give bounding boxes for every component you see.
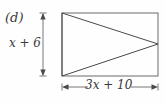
- triangle-shape: [62, 13, 158, 76]
- rectangle-shape: [62, 13, 158, 76]
- width-dimension-label: 3x + 10: [85, 79, 132, 91]
- height-dimension-arrow-top-icon: [40, 13, 45, 20]
- part-label: (d): [5, 11, 23, 24]
- height-dimension-arrow-bottom-icon: [40, 70, 45, 77]
- width-dimension-arrow-right-icon: [152, 84, 159, 89]
- figure-drawing: [0, 0, 165, 103]
- geometry-figure: (d) x + 6 3x + 10: [0, 0, 165, 103]
- width-dimension-arrow-left-icon: [62, 84, 69, 89]
- height-dimension-label: x + 6: [8, 37, 41, 49]
